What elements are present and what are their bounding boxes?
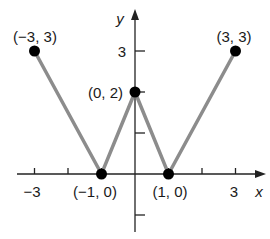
y-tick-label: 3 xyxy=(118,43,126,60)
x-tick-label: −3 xyxy=(23,183,40,200)
data-point xyxy=(96,169,107,180)
point-label: (1, 0) xyxy=(152,183,187,200)
point-label: (0, 2) xyxy=(88,84,123,101)
data-point xyxy=(29,46,40,57)
point-label: (−3, 3) xyxy=(13,28,57,45)
data-point xyxy=(230,46,241,57)
point-label: (3, 3) xyxy=(216,28,251,45)
axes xyxy=(17,14,262,232)
y-axis-arrow-icon xyxy=(131,9,139,20)
y-axis-label: y xyxy=(115,10,125,27)
data-point xyxy=(130,87,141,98)
data-point xyxy=(163,169,174,180)
chart: (−3, 3)(3, 3)(0, 2)(−1, 0)(1, 0)−333xy xyxy=(0,0,270,239)
x-axis-label: x xyxy=(254,183,263,200)
x-tick-label: 3 xyxy=(230,183,238,200)
labels: (−3, 3)(3, 3)(0, 2)(−1, 0)(1, 0)−333xy xyxy=(13,10,263,200)
point-label: (−1, 0) xyxy=(73,183,117,200)
x-axis-arrow-icon xyxy=(255,170,266,178)
